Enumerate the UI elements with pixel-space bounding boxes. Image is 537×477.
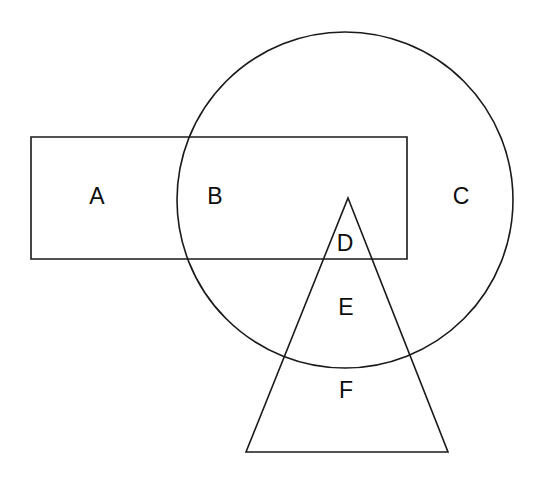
region-label-b: B <box>207 185 222 208</box>
region-label-d: D <box>337 232 354 255</box>
diagram-canvas: A B C D E F <box>0 0 537 477</box>
region-label-a: A <box>89 185 104 208</box>
region-label-c: C <box>453 185 470 208</box>
shapes-svg <box>0 0 537 477</box>
region-label-f: F <box>339 379 353 402</box>
region-label-e: E <box>338 296 353 319</box>
